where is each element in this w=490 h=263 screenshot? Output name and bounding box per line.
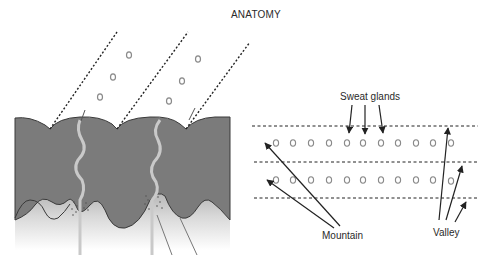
valley-arrow (439, 128, 448, 220)
label-valley: Valley (433, 227, 460, 238)
valley-arrow (446, 166, 462, 220)
skin-cross-section (15, 32, 250, 255)
dashed-line (186, 42, 250, 129)
label-mountain: Mountain (322, 230, 363, 241)
skin-anatomy-diagram (0, 0, 490, 263)
ridge-top-view (252, 105, 478, 228)
sweat-gland-arrow (379, 105, 383, 133)
valley-arrow (455, 202, 466, 222)
pore-row-1 (273, 140, 453, 146)
diagram-title: ANATOMY (231, 9, 281, 20)
mountain-arrow (267, 180, 334, 228)
pore-circles (98, 52, 201, 104)
mountain-arrow (265, 143, 340, 226)
dashed-line (117, 32, 188, 129)
sweat-gland-arrow (349, 105, 352, 133)
label-sweat-glands: Sweat glands (340, 91, 400, 102)
